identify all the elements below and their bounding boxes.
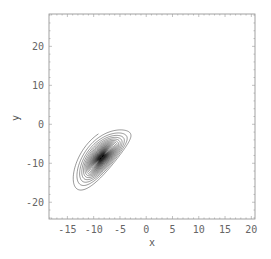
y-tick-label: -20 [26, 197, 44, 208]
x-tick-label: 10 [193, 224, 205, 235]
lorenz-plot: -15-10-505101520 -20-1001020 x y [0, 0, 271, 259]
x-tick-label: -15 [58, 224, 76, 235]
y-tick-label: 0 [38, 119, 44, 130]
x-tick-label: 15 [219, 224, 231, 235]
y-axis-label: y [10, 115, 21, 121]
x-tick-label: 20 [245, 224, 257, 235]
x-tick-label: 5 [169, 224, 175, 235]
y-tick-label: 20 [32, 41, 44, 52]
y-tick-label: 10 [32, 80, 44, 91]
y-tick-label: -10 [26, 158, 44, 169]
x-tick-label: -5 [114, 224, 126, 235]
x-axis-label: x [149, 237, 155, 248]
x-tick-label: 0 [143, 224, 149, 235]
x-tick-label: -10 [85, 224, 103, 235]
